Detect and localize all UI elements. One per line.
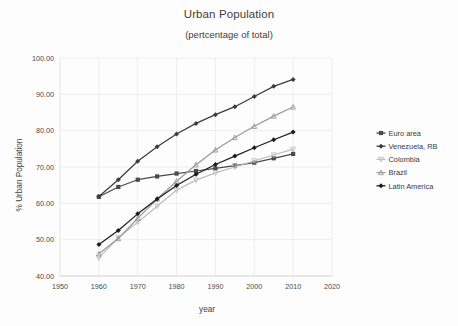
- data-point-marker: [155, 174, 159, 178]
- y-axis-ticks: 40.0050.0060.0070.0080.0090.00100.00: [32, 54, 54, 281]
- x-axis-ticks: 19501960197019801990200020102020: [52, 282, 340, 291]
- y-tick-label: 50.00: [36, 235, 54, 244]
- data-point-marker: [252, 145, 257, 150]
- y-tick-label: 90.00: [36, 90, 54, 99]
- legend-item-brazil[interactable]: Brazil: [377, 168, 408, 177]
- x-tick-label: 1980: [169, 282, 185, 291]
- x-tick-label: 2020: [324, 282, 340, 291]
- data-point-marker: [271, 137, 276, 142]
- data-series-group: [96, 77, 295, 260]
- chart-container: Urban Population (pertcentage of total) …: [0, 0, 458, 326]
- series-latin-america: [96, 130, 295, 247]
- legend-label: Venezuela, RB: [389, 142, 438, 151]
- y-tick-label: 40.00: [36, 272, 54, 281]
- y-tick-label: 100.00: [32, 54, 54, 63]
- data-point-marker: [213, 162, 218, 167]
- x-axis-title: year: [199, 305, 215, 314]
- legend-label: Euro area: [389, 129, 422, 138]
- legend-marker-icon: [379, 183, 384, 188]
- y-tick-label: 60.00: [36, 199, 54, 208]
- legend-marker-icon: [379, 131, 383, 135]
- chart-legend: Euro areaVenezuela, RBColombiaBrazilLati…: [377, 129, 438, 191]
- data-point-marker: [116, 185, 120, 189]
- legend-marker-icon: [379, 144, 384, 149]
- legend-label: Latin America: [389, 182, 435, 191]
- data-point-marker: [136, 178, 140, 182]
- data-point-marker: [232, 104, 237, 109]
- x-tick-label: 1970: [130, 282, 146, 291]
- y-tick-label: 80.00: [36, 126, 54, 135]
- legend-label: Brazil: [389, 168, 408, 177]
- chart-plot-area: 40.0050.0060.0070.0080.0090.00100.00 195…: [0, 0, 458, 326]
- data-point-marker: [252, 94, 257, 99]
- legend-item-euro-area[interactable]: Euro area: [377, 129, 422, 138]
- legend-item-colombia[interactable]: Colombia: [377, 155, 421, 164]
- x-tick-label: 2000: [246, 282, 262, 291]
- y-tick-label: 70.00: [36, 163, 54, 172]
- legend-item-venezuela-rb[interactable]: Venezuela, RB: [377, 142, 438, 151]
- data-point-marker: [174, 171, 178, 175]
- data-point-marker: [232, 154, 237, 159]
- data-point-marker: [291, 77, 296, 82]
- data-point-marker: [213, 112, 218, 117]
- data-point-marker: [194, 121, 199, 126]
- data-point-marker: [213, 166, 217, 170]
- x-tick-label: 1960: [91, 282, 107, 291]
- x-tick-label: 2010: [285, 282, 301, 291]
- series-line: [99, 79, 293, 196]
- data-point-marker: [271, 84, 276, 89]
- y-axis-title: % Urban Population: [15, 138, 24, 211]
- legend-item-latin-america[interactable]: Latin America: [377, 182, 435, 191]
- x-tick-label: 1990: [207, 282, 223, 291]
- legend-label: Colombia: [389, 155, 421, 164]
- x-tick-label: 1950: [52, 282, 68, 291]
